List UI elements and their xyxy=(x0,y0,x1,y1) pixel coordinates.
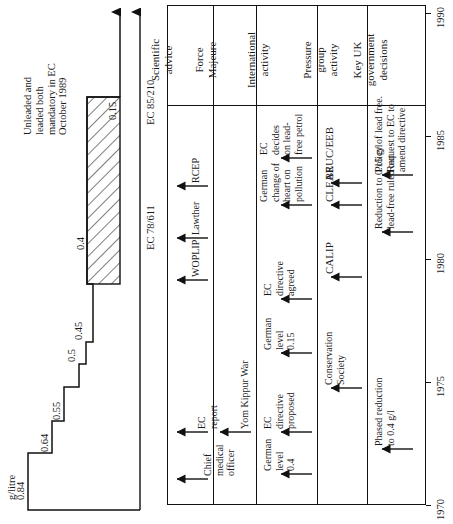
year-tick-1980 xyxy=(426,259,431,260)
event-phased-reduction: Phased reduction to 0.4 g/l xyxy=(373,377,396,446)
year-label-1985: 1985 xyxy=(435,130,447,151)
events-table: Scientific advice Force Majeure Internat… xyxy=(167,5,426,505)
step-label-0point15: 0.15 xyxy=(107,102,119,120)
event-calip: CALIP xyxy=(323,242,336,274)
year-label-1980: 1980 xyxy=(435,253,447,274)
year-tick-1990 xyxy=(426,13,431,14)
step-label-0point4: 0.4 xyxy=(75,237,87,250)
event-beuc-eeb: BEUC/EEB xyxy=(323,127,336,180)
event-rcep: RCEP xyxy=(190,158,202,183)
year-tick-1975 xyxy=(426,382,431,383)
hatched-0point4-band xyxy=(87,97,120,284)
event-ec-directive-agreed: EC directive agreed xyxy=(262,261,297,296)
event-ec-directive-proposed: EC directive proposed xyxy=(262,392,297,429)
figure-root: g/litre Unleaded and leaded both mandato… xyxy=(0,0,453,524)
step-label-0point45: 0.45 xyxy=(73,322,85,340)
year-label-1975: 1975 xyxy=(435,376,447,397)
step-label-0point5: 0.5 xyxy=(66,349,78,362)
lead-concentration-step-chart: g/litre Unleaded and leaded both mandato… xyxy=(0,0,160,524)
event-chief-medical-officer: Chief medical officer xyxy=(202,444,237,476)
step-label-0point55: 0.55 xyxy=(51,402,63,420)
step-label-0point84: 0.84 xyxy=(15,482,27,500)
event-yom-kippur-war: Yom Kippur War xyxy=(239,360,251,429)
event-ec-decides-lead-free: EC decides on lead- free petrol xyxy=(258,114,305,155)
event-lawther: Lawther xyxy=(190,202,202,235)
event-german-change-of-heart: German change of heart on pollution xyxy=(258,163,305,202)
year-tick-1970 xyxy=(426,505,431,506)
unleaded-mandatory-note: Unleaded and leaded both mandatory in EC… xyxy=(22,63,69,135)
step-label-0point64: 0.64 xyxy=(39,434,51,452)
year-axis: 1970 1975 1980 1985 1990 xyxy=(426,0,453,524)
year-label-1970: 1970 xyxy=(435,499,447,520)
event-german-level-0point15: German level 0.15 xyxy=(262,318,297,350)
event-ec-report: EC report xyxy=(196,405,219,429)
directive-label-ec-78-611: EC 78/611 xyxy=(145,205,157,250)
year-tick-1985 xyxy=(426,136,431,137)
event-conservation-society: Conservation Society xyxy=(323,332,346,385)
year-label-1990: 1990 xyxy=(435,7,447,28)
event-woplip: WOPLIP xyxy=(190,240,202,277)
event-german-level-0point4: German level 0.4 xyxy=(262,439,297,471)
event-policy-of-lead-free: Policy of lead free. Request to EC to am… xyxy=(373,96,408,172)
